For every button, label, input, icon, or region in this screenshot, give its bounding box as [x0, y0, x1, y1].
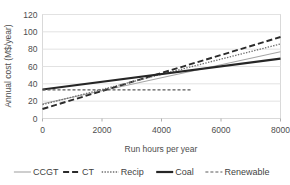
y-tick-label: 20 [28, 96, 38, 106]
y-tick-label: 120 [23, 10, 37, 20]
legend-label-ct: CT [82, 167, 94, 177]
y-tick-label: 80 [28, 44, 38, 54]
legend-label-coal: Coal [175, 167, 194, 177]
x-tick-label: 8000 [271, 125, 290, 135]
x-tick-label: 4000 [152, 125, 171, 135]
chart-container: 020406080100120 02000400060008000 Run ho… [0, 0, 290, 185]
x-axis-title: Run hours per year [125, 144, 198, 154]
y-tick-label: 0 [33, 114, 38, 124]
x-tick-label: 2000 [93, 125, 112, 135]
y-tick-label: 60 [28, 62, 38, 72]
x-tick-label: 0 [40, 125, 45, 135]
legend-label-renewable: Renewable [224, 167, 269, 177]
y-tick-label: 100 [23, 27, 37, 37]
legend-label-recip: Recip [121, 167, 144, 177]
y-tick-label: 40 [28, 79, 38, 89]
legend-label-ccgt: CCGT [33, 167, 59, 177]
y-axis-title: Annual cost (M$/year) [3, 24, 13, 107]
chart-legend: CCGTCTRecipCoalRenewable [14, 167, 270, 177]
x-tick-label: 6000 [212, 125, 231, 135]
